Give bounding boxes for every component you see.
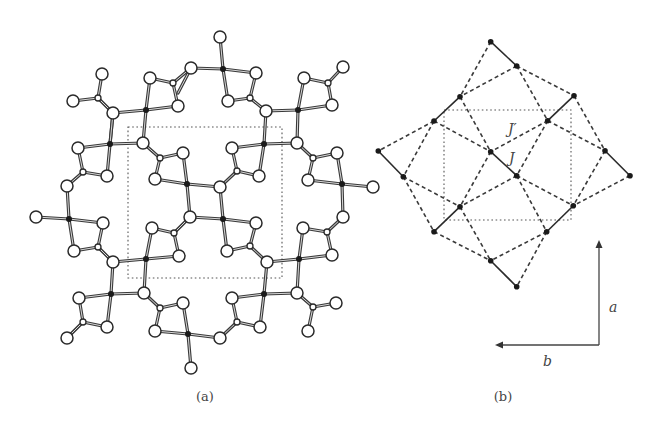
oxygen-atom (337, 211, 349, 223)
copper-atom (295, 107, 301, 113)
oxygen-atom (326, 249, 338, 261)
oxygen-atom (185, 362, 197, 374)
lattice-site (571, 93, 577, 99)
lattice-site (431, 229, 437, 235)
arrowhead-b-icon (495, 342, 503, 349)
caption-b: (b) (494, 389, 512, 404)
oxygen-atom (61, 180, 73, 192)
oxygen-atom (184, 211, 196, 223)
copper-atom (339, 181, 345, 187)
carbon-atom (95, 244, 101, 250)
jprime-bond (460, 42, 491, 97)
carbon-atom (247, 95, 253, 101)
jprime-bond (460, 207, 491, 261)
oxygen-atom (226, 142, 238, 154)
copper-atom (143, 256, 149, 262)
oxygen-atom (331, 147, 343, 159)
j-bond (491, 42, 517, 66)
carbon-atom (80, 319, 86, 325)
label-j-prime: J′ (505, 121, 518, 137)
lattice-site (457, 204, 463, 210)
oxygen-atom (185, 62, 197, 74)
oxygen-atom (177, 147, 189, 159)
oxygen-atom (254, 321, 266, 333)
carbon-atom (95, 95, 101, 101)
lattice-site (488, 149, 494, 155)
lattice-site (514, 284, 520, 290)
oxygen-atom (177, 297, 189, 309)
oxygen-atom (291, 287, 303, 299)
oxygen-atom (172, 100, 184, 112)
carbon-atom (80, 169, 86, 175)
jprime-bond (573, 176, 630, 206)
oxygen-atom (149, 173, 161, 185)
lattice-site (401, 174, 407, 180)
oxygen-atom (61, 332, 73, 344)
axis-label-b: b (543, 353, 552, 369)
copper-atom (185, 331, 191, 337)
dimer-bonds-j (378, 42, 630, 287)
panel-a-crystal-structure: (a) (30, 31, 379, 404)
carbon-atom (310, 155, 316, 161)
carbon-atom (324, 229, 330, 235)
oxygen-atom (367, 181, 379, 193)
lattice-site (376, 148, 382, 154)
oxygen-atom (107, 107, 119, 119)
carbon-atom (310, 304, 316, 310)
lattice-site (488, 39, 494, 45)
oxygen-atom (260, 105, 272, 117)
oxygen-atom (97, 217, 109, 229)
oxygen-atom (146, 222, 158, 234)
oxygen-atom (173, 250, 185, 262)
oxygen-atom (149, 325, 161, 337)
lattice-site (488, 258, 494, 264)
axis-label-a: a (609, 299, 617, 315)
oxygen-atom (107, 256, 119, 268)
oxygen-atom (214, 31, 226, 43)
oxygen-atom (226, 292, 238, 304)
oxygen-atom (302, 174, 314, 186)
oxygen-atom (72, 142, 84, 154)
oxygen-atom (337, 61, 349, 73)
oxygen-atom (297, 222, 309, 234)
copper-atom (108, 291, 114, 297)
atoms (30, 31, 379, 374)
carbon-atom (325, 80, 331, 86)
copper-atom (296, 256, 302, 262)
panel-b-spin-lattice: J′ J a b (b) (376, 39, 633, 404)
oxygen-atom (326, 99, 338, 111)
oxygen-atom (101, 170, 113, 182)
figure: (a) J′ J a b (b) (0, 0, 651, 433)
carbon-atom (234, 319, 240, 325)
oxygen-atom (291, 137, 303, 149)
copper-atom (107, 141, 113, 147)
copper-atom (220, 216, 226, 222)
oxygen-atom (253, 170, 265, 182)
jprime-bond (574, 96, 605, 151)
jprime-bond (573, 151, 605, 206)
lattice-site (514, 173, 520, 179)
copper-atom (184, 181, 190, 187)
jprime-bond (460, 97, 491, 152)
label-j: J (506, 150, 516, 166)
oxygen-atom (214, 181, 226, 193)
oxygen-atom (250, 67, 262, 79)
oxygen-atom (30, 211, 42, 223)
oxygen-atom (221, 245, 233, 257)
j-bond (548, 96, 574, 121)
caption-a: (a) (196, 389, 214, 404)
copper-atom (220, 66, 226, 72)
oxygen-atom (261, 256, 273, 268)
oxygen-atom (144, 72, 156, 84)
copper-atom (143, 107, 149, 113)
oxygen-atom (330, 297, 342, 309)
lattice-site (545, 118, 551, 124)
oxygen-atom (302, 325, 314, 337)
arrowhead-a-icon (596, 240, 603, 248)
copper-atom (261, 291, 267, 297)
lattice-site (431, 118, 437, 124)
oxygen-atom (101, 321, 113, 333)
lattice-site (544, 229, 550, 235)
oxygen-atom (298, 72, 310, 84)
oxygen-atom (96, 68, 108, 80)
